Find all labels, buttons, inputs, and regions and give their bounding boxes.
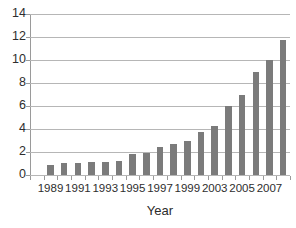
x-tick — [126, 176, 127, 180]
x-tick — [194, 176, 195, 180]
x-tick — [71, 176, 72, 180]
x-tick — [249, 176, 250, 180]
bar — [143, 153, 150, 175]
x-tick — [290, 176, 291, 180]
bar — [266, 60, 273, 175]
x-tick — [276, 176, 277, 180]
bar — [47, 165, 54, 175]
x-axis-tick-labels: 198919911993199519971999200320052007 — [30, 182, 290, 198]
y-tick-label-14: 14 — [2, 7, 26, 20]
bar — [102, 162, 109, 175]
x-tick — [181, 176, 182, 180]
y-tick-label-2: 2 — [2, 145, 26, 158]
bar — [88, 162, 95, 175]
bar-series — [30, 14, 290, 175]
x-tick — [222, 176, 223, 180]
x-axis-title: Year — [30, 203, 290, 218]
x-tick — [167, 176, 168, 180]
bar — [253, 72, 260, 176]
x-tick — [153, 176, 154, 180]
y-tick-label-6: 6 — [2, 99, 26, 112]
bar — [198, 132, 205, 175]
x-tick — [263, 176, 264, 180]
bar — [280, 40, 287, 175]
x-tick-label-2007: 2007 — [253, 182, 285, 196]
x-tick — [208, 176, 209, 180]
bar — [75, 163, 82, 175]
bar — [170, 144, 177, 175]
x-tick — [139, 176, 140, 180]
bar — [129, 154, 136, 175]
x-axis-ticks — [30, 176, 290, 181]
x-tick — [98, 176, 99, 180]
figure-container: 14121086420 1989199119931995199719992003… — [0, 0, 296, 228]
y-tick-label-0: 0 — [2, 168, 26, 181]
bar — [157, 147, 164, 175]
figure-bottom-caption — [0, 220, 296, 228]
x-tick — [85, 176, 86, 180]
x-tick — [57, 176, 58, 180]
bar — [116, 161, 123, 175]
y-tick-label-10: 10 — [2, 53, 26, 66]
x-tick — [30, 176, 31, 180]
x-tick — [112, 176, 113, 180]
x-tick — [235, 176, 236, 180]
bar — [239, 95, 246, 176]
x-tick — [44, 176, 45, 180]
bar — [211, 126, 218, 175]
bar — [184, 141, 191, 176]
bar — [225, 106, 232, 175]
y-tick-label-4: 4 — [2, 122, 26, 135]
y-tick-label-8: 8 — [2, 76, 26, 89]
bar — [61, 163, 68, 175]
y-tick-label-12: 12 — [2, 30, 26, 43]
